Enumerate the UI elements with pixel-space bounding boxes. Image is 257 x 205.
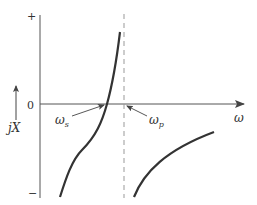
reactance-curve-lower: [60, 32, 120, 197]
omega-p-pointer: [127, 106, 147, 116]
minus-label: −: [28, 187, 37, 200]
plus-label: +: [27, 10, 36, 23]
zero-label: 0: [27, 99, 34, 112]
reactance-diagram: + − 0 jX ω ωs ωp: [0, 0, 257, 205]
omega-axis-label: ω: [234, 111, 244, 125]
omega-s-label: ωs: [55, 113, 69, 129]
omega-p-label: ωp: [149, 113, 164, 129]
reactance-curve-upper: [134, 132, 214, 197]
jx-label: jX: [5, 121, 21, 135]
reactance-plot: + − 0 jX ω ωs ωp: [0, 0, 257, 205]
omega-s-pointer: [72, 105, 104, 116]
